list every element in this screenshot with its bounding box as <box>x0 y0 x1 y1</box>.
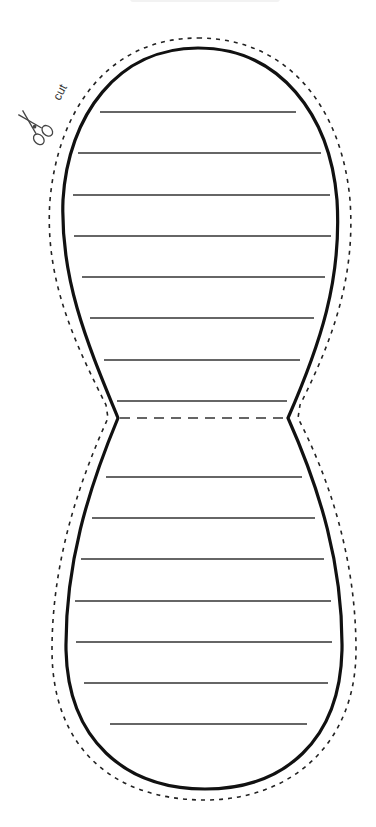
peanut-outline <box>63 48 342 789</box>
peanut-template <box>0 0 376 827</box>
scissors-icon <box>13 105 55 147</box>
